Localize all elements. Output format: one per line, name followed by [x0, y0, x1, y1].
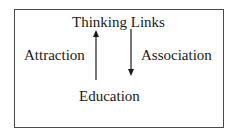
arrows-layer — [0, 0, 235, 137]
up-arrow-icon — [93, 30, 99, 80]
down-arrow-icon — [128, 29, 134, 76]
